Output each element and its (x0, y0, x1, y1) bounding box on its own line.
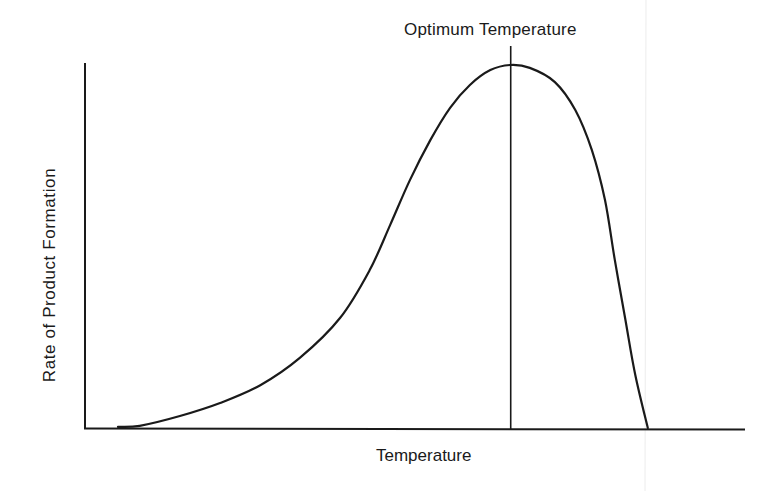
y-axis-label: Rate of Product Formation (40, 168, 60, 382)
optimum-temperature-annotation: Optimum Temperature (404, 20, 577, 40)
x-axis-label: Temperature (376, 446, 471, 466)
chart-plot (0, 0, 784, 491)
x-axis (84, 429, 745, 430)
rate-curve (118, 65, 648, 428)
